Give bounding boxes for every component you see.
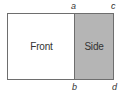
side-face: Side	[74, 13, 114, 80]
point-a-label: a	[71, 2, 76, 11]
front-side-diagram: Front Side a c b d	[0, 0, 128, 95]
side-label: Side	[75, 14, 113, 79]
point-d-label: d	[112, 83, 117, 92]
point-b-label: b	[72, 83, 77, 92]
front-face: Front	[7, 13, 75, 80]
front-label: Front	[8, 14, 75, 79]
point-c-label: c	[111, 2, 116, 11]
